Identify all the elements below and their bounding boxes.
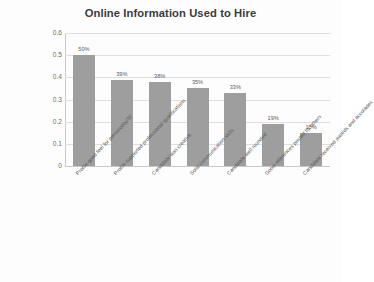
y-axis-tick-label: 0.2 — [36, 119, 62, 126]
y-axis-tick-label: 0.3 — [36, 97, 62, 104]
y-axis-tick-label: 0.4 — [36, 74, 62, 81]
bar-value-label: 50% — [69, 47, 99, 53]
bar-value-label: 19% — [258, 116, 288, 122]
bar — [111, 80, 133, 166]
gridline — [65, 55, 330, 56]
bar — [187, 88, 209, 166]
bar-value-label: 35% — [183, 80, 213, 86]
bar-value-label: 38% — [145, 74, 175, 80]
bar-value-label: 33% — [220, 85, 250, 91]
bar — [262, 124, 284, 166]
y-axis-tick-label: 0.1 — [36, 141, 62, 148]
y-axis-tick-label: 0.5 — [36, 52, 62, 59]
gridline — [65, 33, 330, 34]
y-axis-ticks: 0.60.50.40.30.20.10 — [32, 33, 62, 166]
gridline — [65, 166, 330, 167]
bar — [73, 55, 95, 166]
bar-value-label: 15% — [296, 125, 326, 131]
chart-title: Online Information Used to Hire — [0, 7, 341, 19]
y-axis-tick-label: 0.6 — [36, 30, 62, 37]
bar — [300, 133, 322, 166]
plot-area: 50%39%38%35%33%19%15% — [65, 33, 330, 166]
gridline — [65, 77, 330, 78]
bar — [149, 82, 171, 166]
y-axis-tick-label: 0 — [36, 163, 62, 170]
bar — [224, 93, 246, 166]
bar-value-label: 39% — [107, 72, 137, 78]
